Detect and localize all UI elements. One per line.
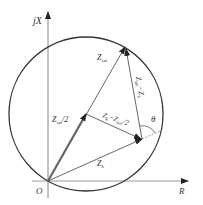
zk-vector (48, 139, 142, 181)
zk-minus-half-label: Zk−Zset/2 (101, 110, 130, 128)
zset-half-vector (48, 114, 86, 181)
impedance-circle-diagram: jX R O Zset Zset/2 Zk Zk−Zset/2 Zset−Zk … (0, 0, 203, 205)
theta-arc (140, 126, 155, 133)
zk-label: Zk (97, 159, 104, 169)
theta-label: θ (151, 114, 156, 124)
zset-minus-zk-label: Zset−Zk (133, 76, 147, 99)
origin-label: O (36, 186, 43, 196)
jx-axis-label: jX (31, 15, 43, 26)
zset-half-label: Zset/2 (52, 115, 68, 125)
zset-label: Zset (97, 53, 108, 63)
theta-reference-line (142, 131, 160, 139)
r-axis-label: R (178, 186, 185, 196)
